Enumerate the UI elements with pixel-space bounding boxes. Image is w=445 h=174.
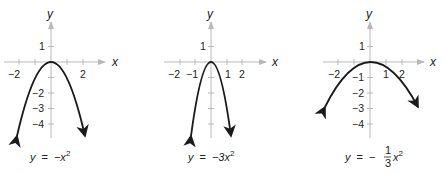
y-tick-label: 1 <box>200 40 206 52</box>
graph-neg-x-squared: y x −2 2 1 −2 −3 −4 y=−x2 <box>4 7 119 163</box>
y-axis-label: y <box>206 7 214 21</box>
y-tick-label: −4 <box>32 118 44 130</box>
y-tick-label: 1 <box>359 40 365 52</box>
y-tick-label: −1 <box>352 71 364 83</box>
x-tick-label: −2 <box>328 68 340 80</box>
graph-neg-3x-squared: y x −2 −1 1 2 1 y=−3x2 <box>164 7 279 163</box>
y-tick-label: −3 <box>352 102 364 114</box>
x-axis-label: x <box>429 55 437 69</box>
x-tick-label: 2 <box>80 68 86 80</box>
figure-canvas: y x −2 2 1 −2 −3 −4 y=−x2 y x −2 −1 1 <box>0 0 445 174</box>
x-axis-label: x <box>111 55 119 69</box>
equation-caption: y=− 1 3 x2 <box>344 144 404 169</box>
svg-text:x2: x2 <box>392 149 404 163</box>
y-tick-label: −2 <box>32 87 44 99</box>
x-tick-label: 2 <box>239 68 245 80</box>
y-axis-label: y <box>365 7 373 21</box>
x-tick-label: −2 <box>8 68 20 80</box>
svg-text:y=−: y=− <box>344 151 375 163</box>
equation-caption: y=−x2 <box>29 149 71 163</box>
x-tick-label: −1 <box>186 68 198 80</box>
y-tick-label: −2 <box>352 87 364 99</box>
y-axis-label: y <box>46 7 54 21</box>
y-tick-label: −3 <box>32 102 44 114</box>
y-tick-label: 1 <box>39 40 45 52</box>
fraction-numerator: 1 <box>385 144 391 156</box>
equation-caption: y=−3x2 <box>187 149 235 163</box>
fraction-denominator: 3 <box>385 157 391 169</box>
x-tick-label: −2 <box>168 68 180 80</box>
y-tick-label: −4 <box>352 118 364 130</box>
graph-neg-third-x-squared: y x −2 1 2 1 −1 −2 −3 −4 y=− 1 3 x2 <box>323 7 437 169</box>
x-tick-label: 1 <box>383 68 389 80</box>
x-tick-label: 1 <box>225 68 231 80</box>
x-axis-label: x <box>271 55 279 69</box>
